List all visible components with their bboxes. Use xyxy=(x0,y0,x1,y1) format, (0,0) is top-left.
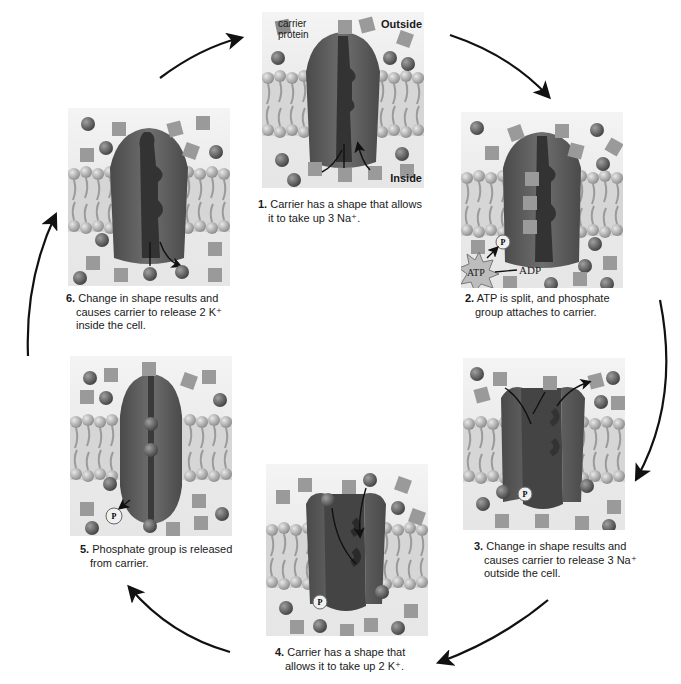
svg-text:P: P xyxy=(523,490,528,499)
svg-text:P: P xyxy=(318,598,323,607)
caption-step-4: 4. Carrier has a shape that allows it to… xyxy=(275,646,450,673)
arrow-5-to-6 xyxy=(28,216,55,356)
panel-step-2: P ATP ADP xyxy=(461,112,623,288)
caption-step-2: 2. ATP is split, and phosphate group att… xyxy=(465,292,640,319)
panel-step-3: P xyxy=(463,358,625,530)
svg-text:P: P xyxy=(501,238,506,247)
arrow-1-to-2 xyxy=(450,35,548,96)
carrier-protein-label: carrier protein xyxy=(278,18,314,40)
panel-step-1: carrier protein Outside Inside xyxy=(262,12,424,188)
caption-step-1: 1. Carrier has a shape that allows it to… xyxy=(258,198,433,225)
arrow-3-to-4 xyxy=(440,600,548,662)
panel-step-6 xyxy=(68,108,230,286)
caption-step-6: 6. Change in shape results and causes ca… xyxy=(66,292,241,333)
panel-step-5: P xyxy=(70,356,232,536)
svg-text:P: P xyxy=(112,512,117,521)
adp-label: ADP xyxy=(519,264,541,276)
caption-step-5: 5. Phosphate group is released from carr… xyxy=(80,543,255,570)
arrow-6-to-1 xyxy=(160,38,240,78)
inside-label: Inside xyxy=(390,172,422,184)
panel-step-4: P xyxy=(266,464,428,636)
atp-label: ATP xyxy=(467,267,485,278)
arrow-2-to-3 xyxy=(637,300,666,478)
caption-step-3: 3. Change in shape results and causes ca… xyxy=(474,540,649,581)
arrow-4-to-5 xyxy=(130,588,230,652)
outside-label: Outside xyxy=(381,18,422,30)
